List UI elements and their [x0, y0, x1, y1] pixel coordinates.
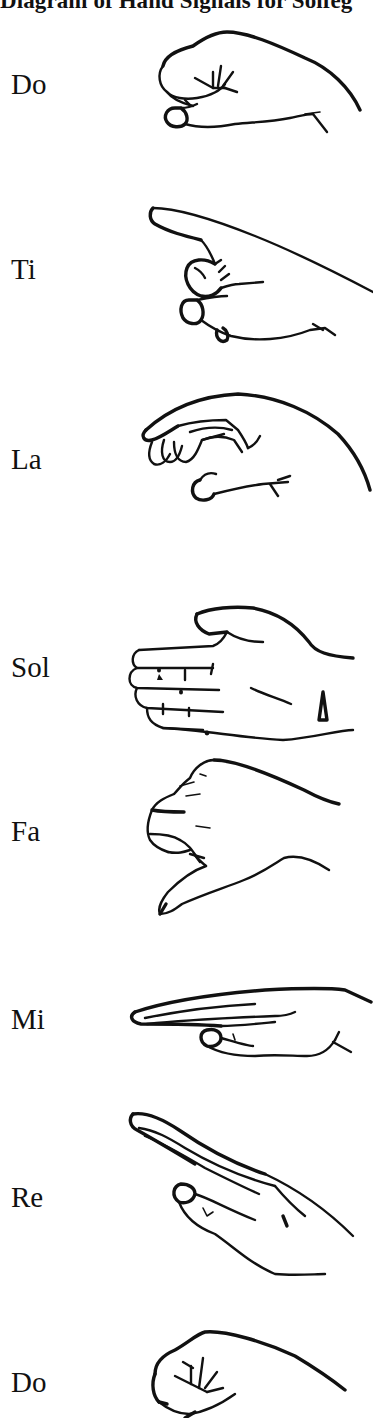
thumb-down-hand-icon: [134, 754, 344, 924]
drooping-hand-icon: [138, 390, 373, 510]
label-re: Re: [11, 1182, 43, 1212]
diagram-title: Diagram of Hand Signals for Solfeg: [0, 0, 352, 14]
label-ti: Ti: [11, 254, 36, 284]
label-do-bottom: Do: [11, 1367, 46, 1397]
fist-hand-icon: [145, 1328, 355, 1418]
label-fa: Fa: [11, 816, 40, 846]
flat-vertical-hand-icon: [123, 600, 363, 750]
angled-up-hand-icon: [125, 1108, 360, 1278]
label-sol: Sol: [11, 652, 50, 682]
label-mi: Mi: [11, 1004, 45, 1034]
label-la: La: [11, 444, 42, 474]
label-do-top: Do: [11, 69, 46, 99]
flat-horizontal-hand-icon: [125, 980, 373, 1065]
fist-hand-icon: [155, 28, 370, 138]
pointing-hand-icon: [145, 200, 373, 350]
